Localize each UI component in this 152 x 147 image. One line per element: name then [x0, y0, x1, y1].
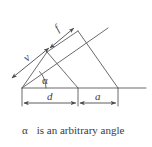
slanted-ray [22, 28, 108, 88]
label-d: d [47, 90, 53, 102]
label-alpha: α [42, 74, 48, 86]
inner-diagonal-left [47, 52, 78, 88]
label-f: f [52, 21, 63, 33]
dimension-arrow-f [50, 28, 74, 48]
label-v: v [21, 51, 32, 63]
figure-container: v f α d a α is an arbitrary angle [0, 0, 152, 147]
caption-alpha-symbol: α [22, 124, 28, 136]
band-top-edge [47, 31, 78, 52]
inner-diagonal-right [78, 31, 118, 88]
label-a: a [95, 90, 101, 102]
caption-description: is an arbitrary angle [37, 124, 125, 136]
figure-caption: α is an arbitrary angle [0, 124, 152, 136]
